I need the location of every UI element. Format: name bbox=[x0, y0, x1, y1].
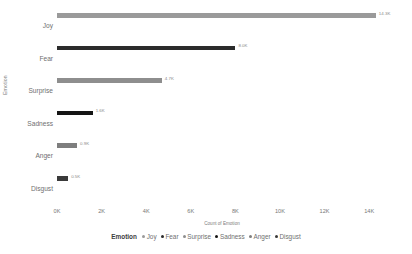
bar-row: Fear8.0K bbox=[57, 43, 387, 76]
bar-sadness[interactable] bbox=[57, 111, 93, 116]
bar-row: Sadness1.6K bbox=[57, 108, 387, 141]
legend-title: Emotion bbox=[111, 233, 137, 240]
bar-disgust[interactable] bbox=[57, 176, 68, 181]
legend-swatch-icon bbox=[249, 235, 252, 238]
legend-item-fear[interactable]: Fear bbox=[161, 233, 179, 240]
bar-value-label-disgust: 0.5K bbox=[71, 174, 80, 179]
bar-value-label-joy: 14.3K bbox=[379, 11, 390, 16]
legend-label: Surprise bbox=[187, 233, 211, 240]
x-tick-label: 10K bbox=[275, 208, 285, 214]
x-tick-label: 0K bbox=[54, 208, 61, 214]
legend-label: Fear bbox=[165, 233, 178, 240]
legend-swatch-icon bbox=[183, 235, 186, 238]
legend-swatch-icon bbox=[275, 235, 278, 238]
bar-row: Anger0.9K bbox=[57, 140, 387, 173]
legend-item-anger[interactable]: Anger bbox=[249, 233, 271, 240]
bar-value-label-surprise: 4.7K bbox=[165, 76, 174, 81]
category-label-anger: Anger bbox=[35, 152, 53, 159]
bar-anger[interactable] bbox=[57, 143, 77, 148]
legend-label: Disgust bbox=[279, 233, 300, 240]
bar-fear[interactable] bbox=[57, 46, 235, 51]
category-label-sadness: Sadness bbox=[27, 120, 53, 127]
x-tick-label: 6K bbox=[187, 208, 194, 214]
x-tick-label: 14K bbox=[364, 208, 374, 214]
y-axis-title: Emotion bbox=[2, 75, 8, 95]
legend-item-disgust[interactable]: Disgust bbox=[275, 233, 301, 240]
plot-area: Joy14.3KFear8.0KSurprise4.7KSadness1.6KA… bbox=[57, 10, 387, 206]
x-axis-title: Count of Emotion bbox=[57, 221, 387, 226]
bar-value-label-fear: 8.0K bbox=[238, 43, 247, 48]
chart-legend: Emotion JoyFearSurpriseSadnessAngerDisgu… bbox=[0, 233, 412, 240]
category-label-surprise: Surprise bbox=[28, 87, 53, 94]
legend-swatch-icon bbox=[142, 235, 145, 238]
bar-row: Surprise4.7K bbox=[57, 75, 387, 108]
x-tick-label: 12K bbox=[320, 208, 330, 214]
legend-item-joy[interactable]: Joy bbox=[142, 233, 157, 240]
x-axis: 0K2K4K6K8K10K12K14K bbox=[57, 208, 387, 220]
bar-joy[interactable] bbox=[57, 13, 376, 18]
legend-swatch-icon bbox=[215, 235, 218, 238]
bar-surprise[interactable] bbox=[57, 78, 162, 83]
bar-value-label-anger: 0.9K bbox=[80, 141, 89, 146]
x-tick-label: 8K bbox=[232, 208, 239, 214]
bar-value-label-sadness: 1.6K bbox=[96, 108, 105, 113]
bar-row: Disgust0.5K bbox=[57, 173, 387, 206]
category-label-disgust: Disgust bbox=[31, 185, 53, 192]
category-label-fear: Fear bbox=[39, 55, 53, 62]
legend-label: Anger bbox=[254, 233, 271, 240]
x-tick-label: 2K bbox=[98, 208, 105, 214]
legend-item-surprise[interactable]: Surprise bbox=[183, 233, 212, 240]
legend-label: Sadness bbox=[220, 233, 245, 240]
legend-swatch-icon bbox=[161, 235, 164, 238]
category-label-joy: Joy bbox=[43, 22, 53, 29]
bar-row: Joy14.3K bbox=[57, 10, 387, 43]
legend-label: Joy bbox=[147, 233, 157, 240]
emotion-bar-chart: Emotion Joy14.3KFear8.0KSurprise4.7KSadn… bbox=[0, 0, 412, 254]
legend-item-sadness[interactable]: Sadness bbox=[215, 233, 245, 240]
x-tick-label: 4K bbox=[143, 208, 150, 214]
